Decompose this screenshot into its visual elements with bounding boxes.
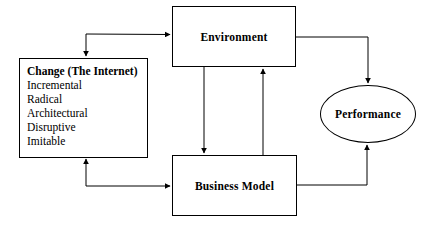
node-change-list-item: Radical xyxy=(27,92,147,106)
node-change-list-item: Disruptive xyxy=(27,120,147,134)
diagram-canvas: Environment Business Model Performance C… xyxy=(0,0,433,230)
node-business-model[interactable]: Business Model xyxy=(172,155,297,216)
node-environment[interactable]: Environment xyxy=(172,6,296,67)
node-change-list-item: Architectural xyxy=(27,106,147,120)
node-change-title: Change (The Internet) xyxy=(27,64,147,78)
connector-business-model-to-performance xyxy=(297,145,367,185)
node-change-list: Incremental Radical Architectural Disrup… xyxy=(27,78,147,148)
node-change-list-item: Imitable xyxy=(27,134,147,148)
node-performance[interactable]: Performance xyxy=(320,85,416,143)
connector-change-to-environment xyxy=(86,34,170,35)
connector-environment-to-performance xyxy=(296,37,368,83)
node-performance-label: Performance xyxy=(335,108,401,120)
node-business-model-label: Business Model xyxy=(195,180,274,192)
node-change[interactable]: Change (The Internet) Incremental Radica… xyxy=(19,58,148,158)
node-environment-label: Environment xyxy=(200,31,267,43)
node-change-list-item: Incremental xyxy=(27,78,147,92)
